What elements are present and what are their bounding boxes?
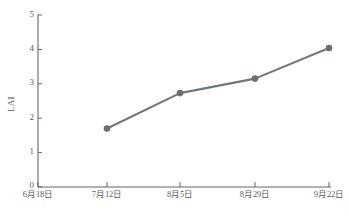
- figure-caption: [0, 208, 349, 217]
- data-point: [104, 125, 111, 132]
- y-tick-label-3: 3: [22, 78, 34, 87]
- y-tick-label-5: 5: [22, 10, 34, 19]
- x-axis-ticks: [38, 182, 329, 187]
- y-axis-ticks: [38, 15, 42, 187]
- figure-lai-line-chart: LAI 5 4 3 2 1 0 6月18日 7月12日 8月5日 8月29日 9…: [0, 0, 349, 217]
- x-tick-label-3: 8月29日: [240, 190, 270, 199]
- data-series-lai-line: [107, 48, 329, 129]
- x-tick-label-1: 7月12日: [92, 190, 122, 199]
- data-point: [326, 45, 333, 52]
- y-tick-label-4: 4: [22, 44, 34, 53]
- y-tick-label-2: 2: [22, 113, 34, 122]
- chart-plot-area: [0, 0, 349, 217]
- y-tick-label-1: 1: [22, 147, 34, 156]
- x-tick-label-0: 6月18日: [23, 190, 53, 199]
- x-tick-label-2: 8月5日: [167, 190, 193, 199]
- y-axis-title: LAI: [4, 84, 18, 124]
- data-point-markers: [104, 45, 333, 132]
- data-point: [252, 75, 259, 82]
- data-point: [177, 90, 184, 97]
- x-tick-label-4: 9月22日: [314, 190, 344, 199]
